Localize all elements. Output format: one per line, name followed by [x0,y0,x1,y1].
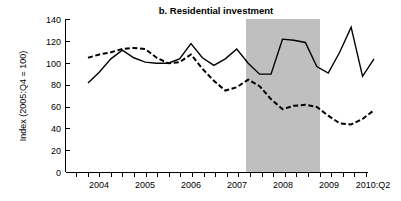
x-tick-label-2007: 2007 [227,180,247,190]
x-tick-label-2009: 2009 [319,180,339,190]
chart-title: b. Residential investment [159,5,274,16]
x-tick-marks [77,173,367,178]
y-axis-label: Index (2005:Q4 = 100) [18,51,28,141]
y-tick-label-40: 40 [51,124,61,134]
y-tick-label-120: 120 [46,37,61,47]
x-tick-label-2005: 2005 [135,180,155,190]
recession-shading-band [246,19,320,172]
x-tick-label-2008: 2008 [273,180,293,190]
y-tick-label-0: 0 [56,168,61,178]
x-tick-label-2004: 2004 [89,180,109,190]
y-tick-label-60: 60 [51,102,61,112]
y-tick-labels: 140 120 100 80 60 40 20 0 [46,15,61,178]
x-tick-label-2010q2: 2010:Q2 [356,180,391,190]
y-tick-label-20: 20 [51,146,61,156]
y-tick-label-140: 140 [46,15,61,25]
series-line-solid [88,27,374,83]
y-tick-marks [66,20,71,173]
chart-figure: 140 120 100 80 60 40 20 0 [0,0,401,201]
series-line-dashed [88,48,374,125]
x-tick-labels: 2004 2005 2006 2007 2008 2009 2010:Q2 [89,180,390,190]
residential-investment-chart: 140 120 100 80 60 40 20 0 [0,0,401,201]
x-tick-label-2006: 2006 [181,180,201,190]
y-tick-label-80: 80 [51,80,61,90]
y-tick-label-100: 100 [46,59,61,69]
